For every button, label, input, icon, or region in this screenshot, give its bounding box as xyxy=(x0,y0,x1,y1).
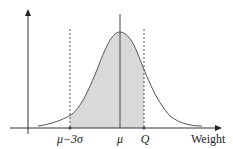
label-q: Q xyxy=(141,132,150,146)
y-axis-arrow-icon xyxy=(25,9,31,16)
normal-distribution-diagram: μ−3σ μ Q Weight xyxy=(0,0,233,149)
label-mu-minus-3sigma: μ−3σ xyxy=(56,132,84,146)
x-axis-arrow-icon xyxy=(215,125,222,131)
marker-dot-mu-minus-3sigma xyxy=(69,127,72,130)
label-mu: μ xyxy=(116,132,123,146)
x-axis-label: Weight xyxy=(191,132,226,146)
marker-dot-q xyxy=(143,127,146,130)
